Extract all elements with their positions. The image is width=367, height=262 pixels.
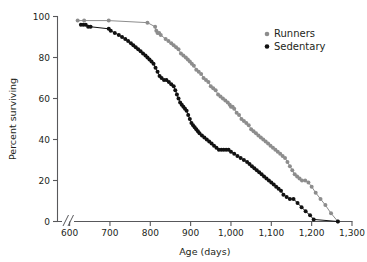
x-tick-label: 1,200 [299, 228, 325, 238]
x-tick-label: 1,000 [218, 228, 244, 238]
data-point [214, 88, 218, 92]
x-tick-label: 900 [182, 228, 199, 238]
data-point [172, 84, 176, 88]
data-point [306, 181, 310, 185]
data-point [237, 113, 241, 117]
series-sedentary [79, 23, 340, 224]
legend-marker-sedentary [265, 44, 270, 49]
data-point [304, 209, 308, 213]
data-point [336, 220, 340, 224]
data-point [319, 197, 323, 201]
y-tick-label: 0 [44, 217, 50, 227]
data-point [288, 164, 292, 168]
data-point [292, 197, 296, 201]
data-point [308, 213, 312, 217]
data-point [82, 19, 86, 23]
data-point [285, 160, 289, 164]
data-point [156, 70, 160, 74]
data-point [314, 191, 318, 195]
data-point [312, 217, 316, 221]
x-tick-label: 700 [101, 228, 118, 238]
x-tick-label: 800 [142, 228, 159, 238]
data-point [113, 31, 117, 35]
data-point [109, 29, 113, 33]
data-point [192, 64, 196, 68]
survival-chart: 6007008009001,0001,1001,2001,300 0204060… [0, 0, 367, 262]
y-tick-label: 20 [39, 176, 51, 186]
x-tick-labels: 6007008009001,0001,1001,2001,300 [61, 228, 365, 238]
chart-legend: RunnersSedentary [265, 28, 326, 52]
data-point [288, 197, 292, 201]
y-axis-title: Percent surviving [7, 78, 18, 160]
y-tick-label: 100 [33, 12, 50, 22]
data-point [186, 113, 190, 117]
legend-label-runners: Runners [274, 28, 315, 39]
data-point [310, 185, 314, 189]
x-tick-label: 1,300 [339, 228, 365, 238]
data-point [177, 97, 181, 101]
data-point [177, 47, 181, 51]
data-point [279, 189, 283, 193]
data-point [296, 201, 300, 205]
data-point [283, 156, 287, 160]
data-point [185, 109, 189, 113]
y-tick-label: 40 [39, 135, 51, 145]
data-point [290, 168, 294, 172]
x-tick-label: 600 [61, 228, 78, 238]
data-point [323, 203, 327, 207]
data-point [247, 123, 251, 127]
x-tick-label: 1,100 [258, 228, 284, 238]
data-point [159, 33, 163, 37]
data-point [232, 107, 236, 111]
data-point [188, 117, 192, 121]
data-point [300, 205, 304, 209]
y-tick-labels: 020406080100 [33, 12, 50, 227]
data-point [173, 88, 177, 92]
x-axis-title: Age (days) [179, 246, 230, 257]
data-point [152, 62, 156, 66]
legend-marker-runners [265, 32, 270, 37]
data-point [89, 25, 93, 29]
data-point [153, 25, 157, 29]
data-point [175, 92, 179, 96]
chart-canvas: 6007008009001,0001,1001,2001,300 0204060… [0, 0, 367, 262]
data-point [199, 72, 203, 76]
data-point [107, 19, 111, 23]
data-point [206, 80, 210, 84]
data-point [154, 66, 158, 70]
legend-label-sedentary: Sedentary [274, 41, 325, 52]
data-point [145, 21, 149, 25]
data-point [329, 211, 333, 215]
y-tick-label: 60 [39, 94, 51, 104]
y-tick-label: 80 [39, 53, 51, 63]
series-line [81, 25, 338, 222]
data-point [76, 19, 80, 23]
